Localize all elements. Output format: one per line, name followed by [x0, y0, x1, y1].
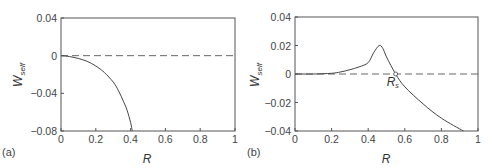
w-self-curve: [295, 45, 463, 131]
y-tick-label: 0: [51, 50, 57, 62]
y-axis-label: Wself: [11, 62, 27, 87]
y-tick-label: 0.04: [37, 12, 58, 24]
y-tick-label: −0.02: [264, 97, 291, 109]
x-tick-label: 0.6: [397, 133, 412, 145]
y-axis-ticks: 0.040.020−0.02−0.04: [264, 11, 298, 137]
x-tick-label: 0: [292, 133, 298, 145]
y-axis-ticks: 0.040−0.04−0.08: [30, 12, 64, 137]
x-tick-label: 0.2: [324, 133, 339, 145]
x-tick-label: 1: [475, 133, 481, 145]
x-axis-label: R: [382, 152, 391, 166]
y-tick-label: 0: [285, 68, 291, 80]
w-self-curve: [61, 56, 132, 131]
x-tick-label: 0.6: [158, 133, 173, 145]
panel-b: Rs 00.20.40.60.81 0.040.020−0.02−0.04 R …: [247, 11, 481, 166]
x-tick-label: 0.4: [361, 133, 376, 145]
chart-figure: 00.20.40.60.81 0.040−0.04−0.08 R Wself (…: [0, 0, 493, 168]
x-tick-label: 0.8: [434, 133, 449, 145]
panel-label: (b): [247, 146, 260, 158]
x-axis-label: R: [143, 152, 152, 166]
y-tick-label: −0.04: [30, 87, 57, 99]
x-tick-label: 0.8: [193, 133, 208, 145]
y-tick-label: 0.02: [271, 40, 292, 52]
x-tick-label: 0: [58, 133, 64, 145]
panel-a: 00.20.40.60.81 0.040−0.04−0.08 R Wself (…: [2, 12, 238, 166]
x-tick-label: 0.4: [123, 133, 138, 145]
x-tick-label: 0.2: [88, 133, 103, 145]
axes-frame: [61, 18, 235, 131]
y-tick-label: −0.08: [30, 125, 57, 137]
panel-label: (a): [2, 146, 15, 158]
y-tick-label: 0.04: [271, 11, 292, 23]
y-tick-label: −0.04: [264, 125, 291, 137]
y-axis-label: Wself: [248, 62, 264, 87]
x-tick-label: 1: [232, 133, 238, 145]
